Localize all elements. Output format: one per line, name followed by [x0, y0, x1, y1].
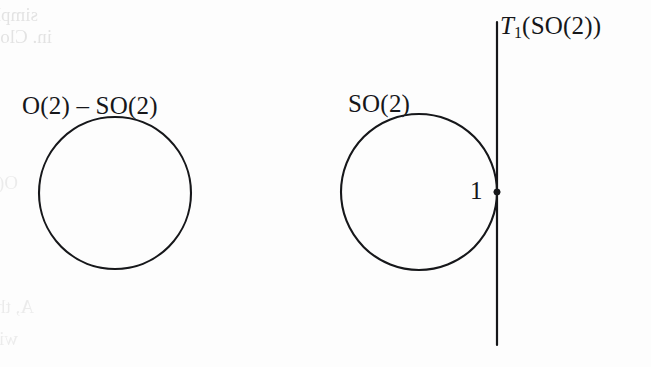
left-circle-label: O(2) – SO(2) [22, 92, 158, 120]
right-circle-label: SO(2) [348, 90, 410, 118]
tangent-line-label-subscript: 1 [514, 24, 522, 41]
figure-canvas: simply connected. But here's x-axisin. C… [0, 0, 651, 367]
tangent-point-dot [494, 189, 500, 195]
tangent-line-label-T: T [500, 12, 514, 39]
tangent-line-label-argument: (SO(2)) [522, 12, 601, 39]
left-circle [39, 117, 191, 269]
tangent-line-label: T1(SO(2)) [500, 12, 601, 42]
diagram-drawing [0, 0, 651, 367]
tangent-point-label: 1 [470, 177, 483, 205]
